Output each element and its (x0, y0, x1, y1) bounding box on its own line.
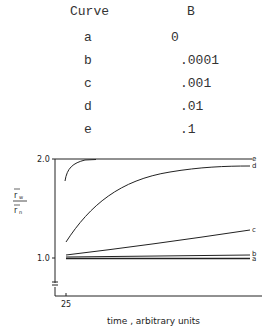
curve-label-d: d (252, 162, 256, 170)
curve-label-a: a (252, 255, 256, 263)
x-axis-label: time , arbitrary units (0, 316, 272, 326)
svg-text:r: r (14, 191, 18, 200)
curve-label-c: c (252, 226, 256, 234)
svg-text:n: n (19, 209, 22, 215)
svg-text:w: w (19, 194, 23, 200)
x-tick-25: 25 (61, 300, 71, 309)
curve-b (66, 255, 250, 257)
y-tick-1: 1.0 (37, 254, 50, 263)
y-axis-label: r w r n (13, 189, 27, 215)
curve-d (66, 166, 250, 242)
curve-c (66, 230, 250, 255)
chart-area: 2.0 1.0 25 r w r n e d c b a (0, 0, 272, 331)
axes (52, 159, 262, 296)
svg-text:r: r (14, 206, 18, 215)
curve-e (65, 160, 96, 182)
y-tick-2: 2.0 (37, 155, 50, 164)
